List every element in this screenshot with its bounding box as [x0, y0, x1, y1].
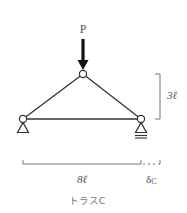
top-joint-pin: [79, 70, 86, 77]
roller-support-icon: [135, 123, 147, 138]
span-dimension-line: [23, 160, 141, 164]
load-label: P: [80, 22, 87, 36]
right-diagonal-member: [83, 74, 141, 119]
height-dimension-bracket: [155, 74, 160, 119]
displacement-label: δC: [146, 173, 157, 186]
truss-diagram: P 3ℓ 8ℓ δC トラスC: [0, 0, 187, 213]
load-arrow-icon: [78, 39, 89, 70]
left-diagonal-member: [23, 74, 83, 119]
displacement-dimension-line: [143, 160, 160, 164]
pin-support-icon: [18, 123, 29, 133]
displacement-subscript: C: [151, 177, 156, 186]
height-label: 3ℓ: [166, 89, 178, 101]
diagram-caption: トラスC: [69, 195, 106, 206]
span-label: 8ℓ: [77, 173, 88, 185]
